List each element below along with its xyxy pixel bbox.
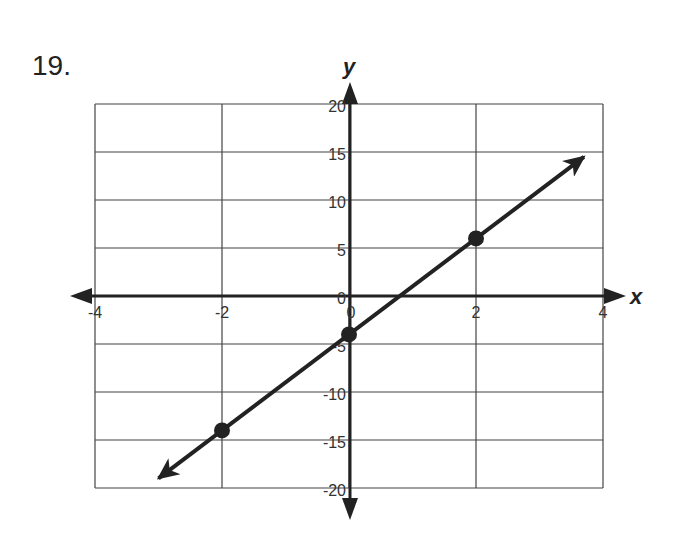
y-tick-label: 20 [328,98,346,115]
y-axis-down-arrow-icon [342,498,358,520]
y-tick-label: 0 [337,290,346,307]
y-tick-label: 5 [337,242,346,259]
y-tick-label: -15 [323,434,346,451]
y-axis-label: y [342,54,357,79]
y-tick-label: 10 [328,194,346,211]
data-point [214,422,230,438]
data-point [468,230,484,246]
y-tick-label: -20 [323,482,346,499]
x-tick-label: 4 [599,304,608,321]
x-tick-label: -2 [215,304,229,321]
coordinate-plane: x y -4-2024 20151050-5-10-15-20 [0,0,676,548]
x-tick-labels: -4-2024 [88,304,608,321]
x-tick-label: 0 [347,304,356,321]
y-tick-label: -10 [323,386,346,403]
x-tick-label: -4 [88,304,102,321]
data-point [341,326,357,342]
axes [70,82,626,520]
x-tick-label: 2 [472,304,481,321]
x-axis-right-arrow-icon [604,288,626,304]
x-axis-label: x [629,284,643,309]
x-axis-left-arrow-icon [70,288,92,304]
y-tick-labels: 20151050-5-10-15-20 [323,98,346,499]
y-tick-label: 15 [328,146,346,163]
